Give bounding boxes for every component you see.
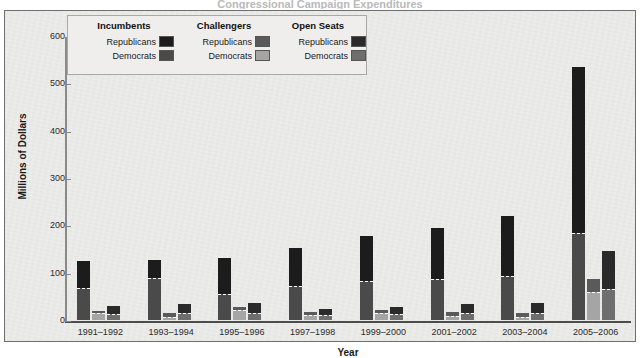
legend-entry: Democrats <box>270 50 366 62</box>
bar-segment-democrats <box>248 313 261 320</box>
legend-group-incumbents: IncumbentsRepublicansDemocrats <box>74 20 174 74</box>
bar-open-seats <box>461 304 474 320</box>
legend-group-heading: Challengers <box>178 20 270 32</box>
bar-segment-republicans <box>178 304 191 313</box>
legend-color-swatch <box>255 50 270 61</box>
bar-open-seats <box>531 303 544 320</box>
bar-open-seats <box>178 304 191 320</box>
y-axis-tick-label: 200 <box>31 221 65 230</box>
legend-entry: Republicans <box>178 36 270 48</box>
y-axis-tick-label-wrap: 500 <box>5 79 65 88</box>
bar-challengers <box>516 313 529 320</box>
bar-segment-republicans <box>531 303 544 313</box>
y-axis-tick <box>65 132 71 133</box>
bar-segment-democrats <box>375 313 388 320</box>
bar-segment-republicans <box>516 313 529 317</box>
y-axis-tick <box>65 321 71 322</box>
legend-entry-label: Republicans <box>298 36 348 48</box>
bar-challengers <box>233 307 246 320</box>
y-axis-tick <box>65 179 71 180</box>
bar-challengers <box>375 310 388 320</box>
x-axis-line <box>65 321 631 323</box>
bar-segment-republicans <box>77 261 90 288</box>
legend-entry: Republicans <box>74 36 174 48</box>
legend-entry-label: Republicans <box>202 36 252 48</box>
y-axis-tick-label-wrap: 0 <box>5 316 65 325</box>
x-axis-tick-label: 1995–1996 <box>207 327 278 337</box>
legend-entry-label: Republicans <box>106 36 156 48</box>
bar-segment-republicans <box>572 67 585 233</box>
plot-area: 0100200300400500600 Millions of Dollars … <box>4 10 636 342</box>
bar-segment-democrats <box>233 310 246 320</box>
bar-segment-republicans <box>461 304 474 313</box>
bar-challengers <box>587 279 600 320</box>
y-axis-tick-label-wrap: 400 <box>5 127 65 136</box>
legend-group-challengers: ChallengersRepublicansDemocrats <box>178 20 270 74</box>
bar-open-seats <box>319 309 332 320</box>
y-axis-tick-label-wrap: 200 <box>5 221 65 230</box>
bar-challengers <box>446 311 459 320</box>
bar-segment-democrats <box>163 317 176 320</box>
y-axis-tick-label: 400 <box>31 127 65 136</box>
y-axis-tick <box>65 274 71 275</box>
bar-segment-democrats <box>587 292 600 320</box>
legend-color-swatch <box>159 50 174 61</box>
bar-incumbents <box>218 258 231 320</box>
bar-segment-democrats <box>107 314 120 320</box>
y-axis-tick <box>65 84 71 85</box>
bar-segment-democrats <box>218 294 231 320</box>
bar-segment-republicans <box>92 311 105 314</box>
y-axis-label: Millions of Dollars <box>17 97 28 217</box>
bar-segment-democrats <box>360 281 373 320</box>
bar-segment-republicans <box>360 236 373 281</box>
legend-entry-label: Democrats <box>112 50 156 62</box>
bar-segment-democrats <box>178 313 191 320</box>
bar-segment-republicans <box>248 303 261 313</box>
bar-segment-democrats <box>461 313 474 320</box>
x-axis-tick-label: 2001–2002 <box>419 327 490 337</box>
bar-segment-democrats <box>602 289 615 320</box>
y-axis-tick-label: 600 <box>31 32 65 41</box>
y-axis-tick-label: 100 <box>31 269 65 278</box>
x-axis-tick-label: 2005–2006 <box>560 327 631 337</box>
x-axis-tick-label: 1991–1992 <box>65 327 136 337</box>
legend-entry: Democrats <box>74 50 174 62</box>
x-axis-tick-label: 1999–2000 <box>348 327 419 337</box>
y-axis-tick-label-wrap: 300 <box>5 174 65 183</box>
y-axis-tick-label-wrap: 600 <box>5 32 65 41</box>
bar-segment-democrats <box>431 279 444 320</box>
bar-incumbents <box>572 67 585 320</box>
legend-group-heading: Incumbents <box>74 20 174 32</box>
bar-segment-republicans <box>163 313 176 317</box>
bar-segment-republicans <box>390 307 403 314</box>
legend-entry: Republicans <box>270 36 366 48</box>
x-axis-tick-label: 2003–2004 <box>490 327 561 337</box>
y-axis-tick-label: 300 <box>31 174 65 183</box>
bar-segment-democrats <box>390 314 403 320</box>
bar-segment-democrats <box>304 315 317 320</box>
y-axis-line <box>65 37 67 323</box>
bar-segment-republicans <box>446 312 459 316</box>
bar-incumbents <box>501 216 514 320</box>
bar-segment-republicans <box>304 312 317 315</box>
y-axis-tick <box>65 226 71 227</box>
bar-segment-democrats <box>289 286 302 320</box>
bar-segment-republicans <box>107 306 120 315</box>
bar-segment-democrats <box>572 233 585 320</box>
chart-title-cropped: Congressional Campaign Expenditures <box>0 0 640 9</box>
chart-legend: IncumbentsRepublicansDemocratsChallenger… <box>67 15 367 75</box>
bar-segment-democrats <box>446 316 459 320</box>
bar-open-seats <box>602 251 615 320</box>
bar-segment-republicans <box>375 310 388 313</box>
bar-segment-democrats <box>531 313 544 320</box>
bar-segment-republicans <box>501 216 514 276</box>
bar-challengers <box>304 312 317 320</box>
bar-open-seats <box>248 303 261 321</box>
legend-color-swatch <box>159 36 174 47</box>
x-axis-tick-label: 1993–1994 <box>136 327 207 337</box>
x-axis-label: Year <box>65 347 631 358</box>
y-axis-tick-label: 500 <box>31 79 65 88</box>
bar-segment-republicans <box>431 228 444 279</box>
bar-segment-republicans <box>218 258 231 295</box>
